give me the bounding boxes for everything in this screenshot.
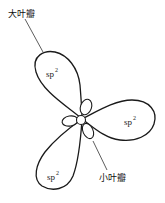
nucleus: [77, 116, 86, 125]
small-lobe-leader-line: [93, 141, 107, 170]
svg-text:2: 2: [133, 115, 136, 121]
large-lobe-upper-left: [35, 52, 82, 119]
large-lobe-leader-line: [25, 19, 43, 52]
large-lobe-lower-left: [36, 119, 82, 189]
orbital-label-right: sp 2: [124, 115, 136, 127]
orbital-label-upper-left: sp 2: [46, 67, 58, 79]
large-lobe-label: 大叶瓣: [8, 8, 35, 19]
svg-text:2: 2: [55, 67, 58, 73]
svg-text:sp: sp: [47, 172, 56, 182]
orbital-label-lower-left: sp 2: [47, 170, 59, 182]
svg-text:sp: sp: [124, 117, 133, 127]
svg-text:2: 2: [56, 170, 59, 176]
sp2-orbital-diagram: 大叶瓣 小叶瓣 sp 2 sp 2 sp 2: [0, 0, 165, 203]
svg-text:sp: sp: [46, 69, 55, 79]
small-lobe-label: 小叶瓣: [99, 173, 126, 183]
